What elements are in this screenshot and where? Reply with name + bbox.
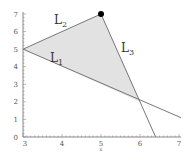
- x-tick-label: 6: [138, 140, 143, 148]
- x-tick-label: 4: [60, 140, 65, 148]
- feasible-region: [23, 14, 140, 102]
- x-axis-title: x: [100, 146, 103, 152]
- y-tick-label: 4: [14, 63, 19, 71]
- x-tick-label: 7: [177, 140, 181, 148]
- y-tick-label: 3: [14, 81, 18, 89]
- y-tick-label: 0: [14, 134, 18, 142]
- y-tick-label: 6: [14, 28, 19, 36]
- y-tick-label: 5: [14, 46, 18, 54]
- x-tick-label: 3: [23, 140, 27, 148]
- chart: 3456701234567xL1L2L3: [0, 0, 192, 161]
- line-label-l2: L2: [54, 13, 67, 29]
- y-tick-label: 1: [14, 116, 18, 124]
- line-label-l3: L3: [121, 41, 134, 57]
- y-tick-label: 2: [14, 98, 18, 106]
- optimal-vertex-point: [98, 11, 104, 17]
- y-tick-label: 7: [14, 11, 18, 19]
